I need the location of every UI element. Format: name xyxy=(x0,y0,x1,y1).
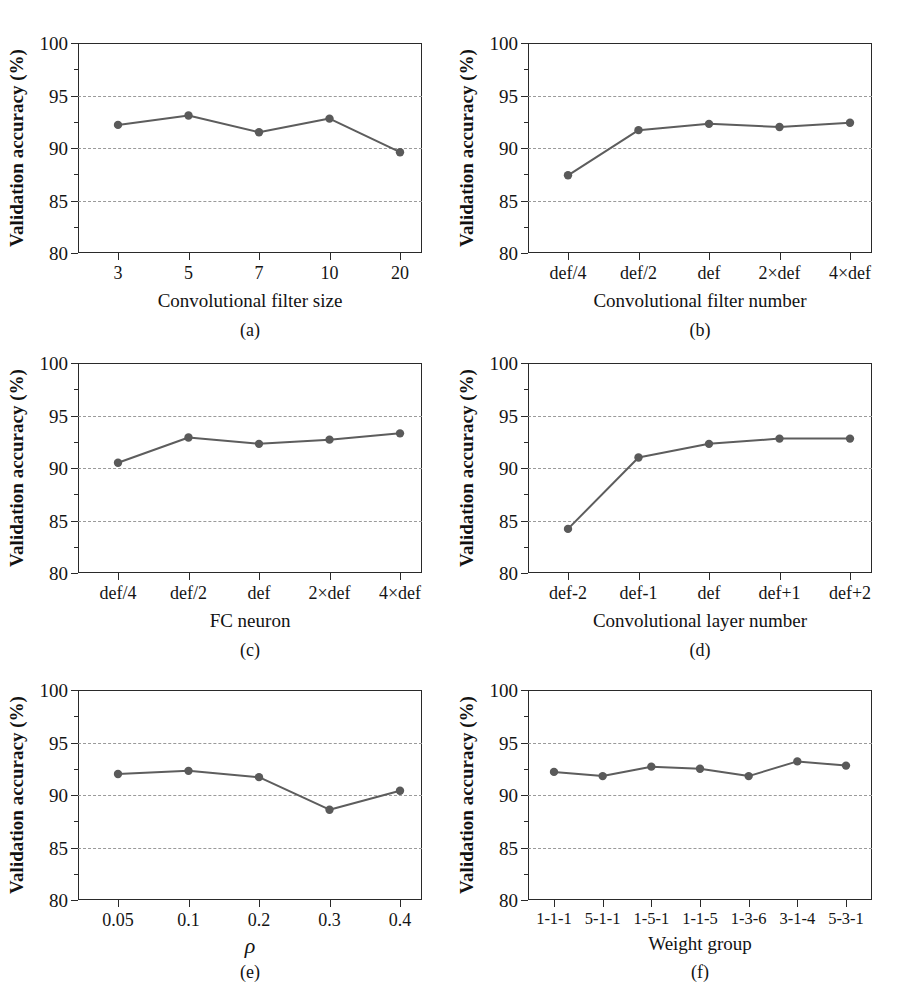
data-point-marker xyxy=(705,120,713,128)
x-tick xyxy=(330,253,331,260)
chart-panel-b: Validation accuracy (%)80859095100def/4d… xyxy=(450,8,900,342)
x-tick xyxy=(700,900,701,907)
data-point-marker xyxy=(255,773,263,781)
plot-area-wrapper: 80859095100def/4def/2def2×def4×def xyxy=(528,43,872,253)
y-tick-label: 90 xyxy=(499,786,518,805)
data-point-marker xyxy=(744,772,752,780)
x-tick-label: def-1 xyxy=(620,584,658,602)
y-tick-85 xyxy=(71,201,78,202)
x-tick-label: def/4 xyxy=(100,584,137,602)
x-tick-label: 10 xyxy=(321,264,339,282)
data-point-marker xyxy=(114,459,122,467)
x-tick-label: 5-3-1 xyxy=(828,911,864,928)
x-tick-label: 4×def xyxy=(379,584,421,602)
x-tick xyxy=(797,900,798,907)
y-tick-label: 85 xyxy=(49,191,68,210)
data-point-marker xyxy=(564,525,572,533)
y-tick-label: 85 xyxy=(49,511,68,530)
y-tick-80 xyxy=(521,253,528,254)
x-tick xyxy=(118,573,119,580)
x-tick-label: 0.3 xyxy=(318,911,341,929)
y-axis-title: Validation accuracy (%) xyxy=(6,363,28,573)
data-point-marker xyxy=(564,171,572,179)
y-tick-95 xyxy=(521,743,528,744)
x-tick-label: 2×def xyxy=(308,584,350,602)
data-point-marker xyxy=(184,433,192,441)
data-series xyxy=(528,690,872,900)
plot-area-wrapper: 808590951000.050.10.20.30.4 xyxy=(78,690,422,900)
data-point-marker xyxy=(634,453,642,461)
x-tick-label: def+2 xyxy=(829,584,871,602)
y-tick-85 xyxy=(71,521,78,522)
series-line xyxy=(568,123,850,176)
chart-panel-c: Validation accuracy (%)80859095100def/4d… xyxy=(0,328,450,662)
x-tick xyxy=(780,253,781,260)
series-line xyxy=(568,439,850,529)
plot-area-wrapper: 80859095100def-2def-1defdef+1def+2 xyxy=(528,363,872,573)
y-tick-100 xyxy=(521,43,528,44)
x-tick xyxy=(259,900,260,907)
data-series xyxy=(78,43,422,253)
y-tick-80 xyxy=(521,573,528,574)
y-tick-85 xyxy=(521,848,528,849)
data-series xyxy=(78,690,422,900)
y-tick-label: 95 xyxy=(499,406,518,425)
chart-panel-e: Validation accuracy (%)808590951000.050.… xyxy=(0,655,450,989)
data-point-marker xyxy=(184,767,192,775)
y-tick-80 xyxy=(71,253,78,254)
x-tick-label: def+1 xyxy=(758,584,800,602)
y-tick-label: 95 xyxy=(49,406,68,425)
y-tick-label: 100 xyxy=(490,681,519,700)
data-series xyxy=(78,363,422,573)
y-tick-90 xyxy=(521,795,528,796)
x-tick xyxy=(850,253,851,260)
figure-grid: Validation accuracy (%)80859095100357102… xyxy=(0,0,900,1003)
y-tick-label: 100 xyxy=(40,34,69,53)
x-tick xyxy=(554,900,555,907)
y-tick-label: 80 xyxy=(49,244,68,263)
x-tick xyxy=(749,900,750,907)
data-point-marker xyxy=(550,768,558,776)
y-tick-label: 85 xyxy=(499,191,518,210)
data-point-marker xyxy=(255,128,263,136)
x-tick xyxy=(400,573,401,580)
y-tick-95 xyxy=(71,743,78,744)
y-tick-90 xyxy=(71,148,78,149)
y-tick-100 xyxy=(71,690,78,691)
y-tick-label: 90 xyxy=(499,459,518,478)
y-tick-95 xyxy=(71,96,78,97)
data-point-marker xyxy=(396,148,404,156)
y-tick-label: 95 xyxy=(49,733,68,752)
y-tick-90 xyxy=(71,795,78,796)
x-tick xyxy=(189,573,190,580)
data-point-marker xyxy=(647,762,655,770)
y-tick-80 xyxy=(71,900,78,901)
x-tick-label: 5-1-1 xyxy=(585,911,621,928)
data-point-marker xyxy=(325,435,333,443)
y-tick-label: 80 xyxy=(499,891,518,910)
data-point-marker xyxy=(842,761,850,769)
data-point-marker xyxy=(705,440,713,448)
x-tick-label: 0.1 xyxy=(177,911,200,929)
x-axis-title: FC neuron xyxy=(78,611,422,632)
y-tick-85 xyxy=(71,848,78,849)
y-tick-label: 80 xyxy=(499,564,518,583)
chart-panel-a: Validation accuracy (%)80859095100357102… xyxy=(0,8,450,342)
y-tick-label: 85 xyxy=(499,511,518,530)
data-point-marker xyxy=(396,787,404,795)
x-tick-label: 0.4 xyxy=(389,911,412,929)
x-tick-label: 3 xyxy=(114,264,123,282)
y-tick-label: 90 xyxy=(499,139,518,158)
y-tick-label: 95 xyxy=(49,86,68,105)
x-axis-title: Weight group xyxy=(528,934,872,955)
x-axis-title: Convolutional layer number xyxy=(528,611,872,632)
x-tick xyxy=(330,900,331,907)
plot-area-wrapper: 808590951003571020 xyxy=(78,43,422,253)
x-tick-label: def/2 xyxy=(620,264,657,282)
x-axis-title: Convolutional filter number xyxy=(528,291,872,312)
x-tick-label: def/4 xyxy=(550,264,587,282)
x-tick xyxy=(568,253,569,260)
y-tick-label: 100 xyxy=(40,354,69,373)
x-tick-label: 0.2 xyxy=(248,911,271,929)
data-point-marker xyxy=(114,770,122,778)
